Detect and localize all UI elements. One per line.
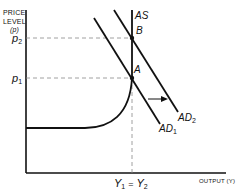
p2-sub: 2 [18, 38, 22, 45]
point-b [130, 36, 134, 40]
p2-tick-label: p2 [12, 33, 22, 45]
point-b-label: B [136, 26, 143, 36]
y-axis-label-level: LEVEL [3, 18, 26, 25]
p1-tick-label: p1 [12, 73, 22, 85]
x-tick-label: Y1 = Y2 [114, 178, 148, 190]
y-axis-label-price: PRICE [3, 9, 25, 16]
y2-sub: 2 [144, 183, 148, 190]
equals-sign: = [128, 179, 133, 189]
y2-main: Y [136, 177, 143, 189]
arrow-head-icon [161, 96, 168, 102]
ad2-main: AD [178, 112, 192, 123]
as-curve [26, 10, 132, 128]
diagram-canvas [0, 0, 249, 192]
ad2-line [114, 10, 178, 112]
ad1-sub: 1 [173, 128, 177, 135]
p1-sub: 1 [18, 78, 22, 85]
as-label: AS [135, 11, 148, 21]
ad2-sub: 2 [192, 117, 196, 124]
point-a [130, 76, 134, 80]
point-a-label: A [134, 65, 141, 75]
ad2-label: AD2 [178, 113, 196, 124]
x-axis-label: OUTPUT (Y) [199, 178, 235, 184]
y1-sub: 1 [121, 183, 125, 190]
ad1-label: AD1 [159, 124, 177, 135]
ad1-line [94, 18, 160, 124]
ad1-main: AD [159, 123, 173, 134]
